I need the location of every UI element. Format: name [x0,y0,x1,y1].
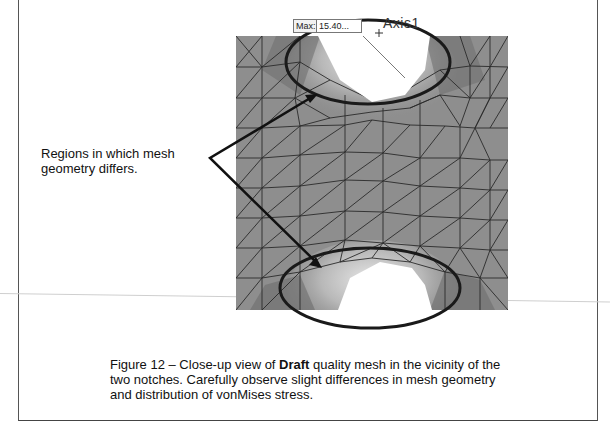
axis-marker-icon [375,29,383,37]
caption-bold-term: Draft [279,357,309,372]
max-stress-value: 15.40... [316,19,362,33]
callout-text: Regions in which mesh geometry differs. [41,146,211,176]
mesh-figure: Max: 15.40... Axis1 Regions in which mes… [0,0,610,330]
max-stress-label: Max: [293,19,319,33]
caption-prefix: Figure 12 – Close-up view of [110,357,279,372]
axis-label: Axis1 [383,15,420,31]
figure-caption: Figure 12 – Close-up view of Draft quali… [110,357,510,402]
mesh-plot [236,20,508,330]
